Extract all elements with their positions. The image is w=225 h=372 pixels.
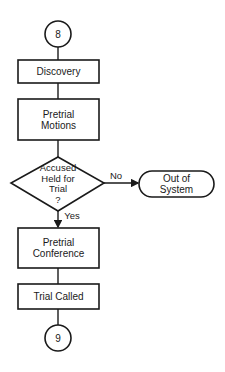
decision-line1: Accused <box>40 163 76 174</box>
trial-called-text: Trial Called <box>33 291 83 302</box>
pretrial-motions-line1: Pretrial <box>43 109 75 120</box>
pretrial-motions-line2: Motions <box>41 120 76 131</box>
connector-8-text: 8 <box>55 29 61 40</box>
pretrial-conference-line2: Conference <box>33 248 85 259</box>
pretrial-conference-label: Pretrial Conference <box>18 228 99 268</box>
pretrial-motions-label: Pretrial Motions <box>18 99 99 140</box>
yes-text: Yes <box>64 210 80 221</box>
decision-line4: ? <box>55 195 60 206</box>
pretrial-conference-line1: Pretrial <box>43 237 75 248</box>
out-of-system-label: Out of System <box>139 171 214 197</box>
out-of-system-line2: System <box>160 184 193 195</box>
connector-8-label: 8 <box>45 21 71 47</box>
decision-label: Accused Held for Trial ? <box>23 158 93 210</box>
no-text: No <box>110 170 122 181</box>
discovery-label: Discovery <box>18 60 99 83</box>
trial-called-label: Trial Called <box>18 284 99 309</box>
decision-line3: Trial <box>49 184 67 195</box>
discovery-text: Discovery <box>37 66 81 77</box>
no-edge-label: No <box>107 170 125 181</box>
yes-edge-label: Yes <box>61 210 83 221</box>
connector-9-label: 9 <box>45 325 71 351</box>
connector-9-text: 9 <box>55 333 61 344</box>
out-of-system-line1: Out of <box>163 173 190 184</box>
